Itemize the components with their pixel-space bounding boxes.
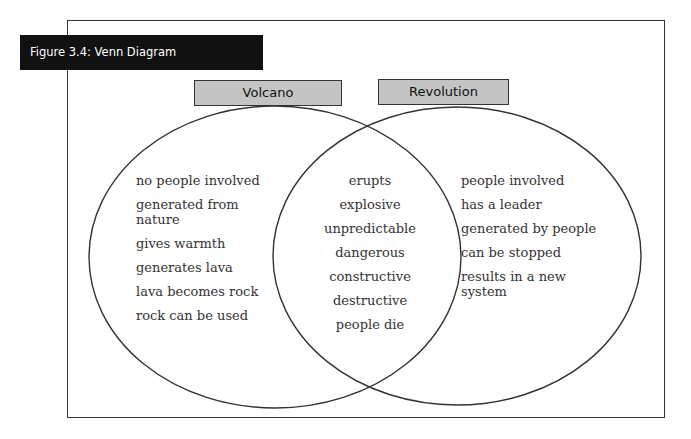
list-item: generated from nature [136,197,260,227]
right-only-list: people involved has a leader generated b… [461,173,596,308]
list-item: generated by people [461,221,596,236]
list-item: can be stopped [461,245,596,260]
intersection-list: erupts explosive unpredictable dangerous… [310,173,430,341]
list-item: erupts [310,173,430,188]
list-item: gives warmth [136,236,260,251]
list-item: has a leader [461,197,596,212]
list-item: unpredictable [310,221,430,236]
list-item: results in a new system [461,269,596,299]
list-item-text: generated from nature [136,197,239,227]
list-item: people involved [461,173,596,188]
list-item: people die [310,317,430,332]
list-item: constructive [310,269,430,284]
list-item-text: results in a new system [461,269,566,299]
list-item: dangerous [310,245,430,260]
list-item: explosive [310,197,430,212]
list-item: no people involved [136,173,260,188]
list-item: lava becomes rock [136,284,260,299]
list-item: generates lava [136,260,260,275]
list-item: destructive [310,293,430,308]
left-only-list: no people involved generated from nature… [136,173,260,332]
list-item: rock can be used [136,308,260,323]
